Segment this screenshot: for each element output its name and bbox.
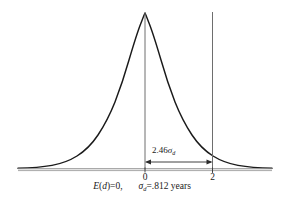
dimension-annotation-label: 2.46σd	[152, 146, 175, 156]
dimension-value: 2.46	[152, 145, 168, 155]
figure-caption: E(d)=0,σd=.812 years	[0, 182, 284, 192]
dimension-arrowhead-right	[207, 160, 213, 165]
sd-units: years	[171, 181, 191, 191]
dimension-arrowhead-left	[145, 160, 151, 165]
sd-value: .812	[152, 181, 169, 191]
sigma-subscript: d	[172, 150, 175, 156]
mean-value: 0,	[115, 181, 122, 191]
normal-curve-figure: 2.46σd 0 2 E(d)=0,σd=.812 years	[0, 0, 284, 205]
expected-value-expression: E(d)=0,	[93, 182, 122, 192]
standard-deviation-expression: σd=.812 years	[139, 182, 191, 192]
